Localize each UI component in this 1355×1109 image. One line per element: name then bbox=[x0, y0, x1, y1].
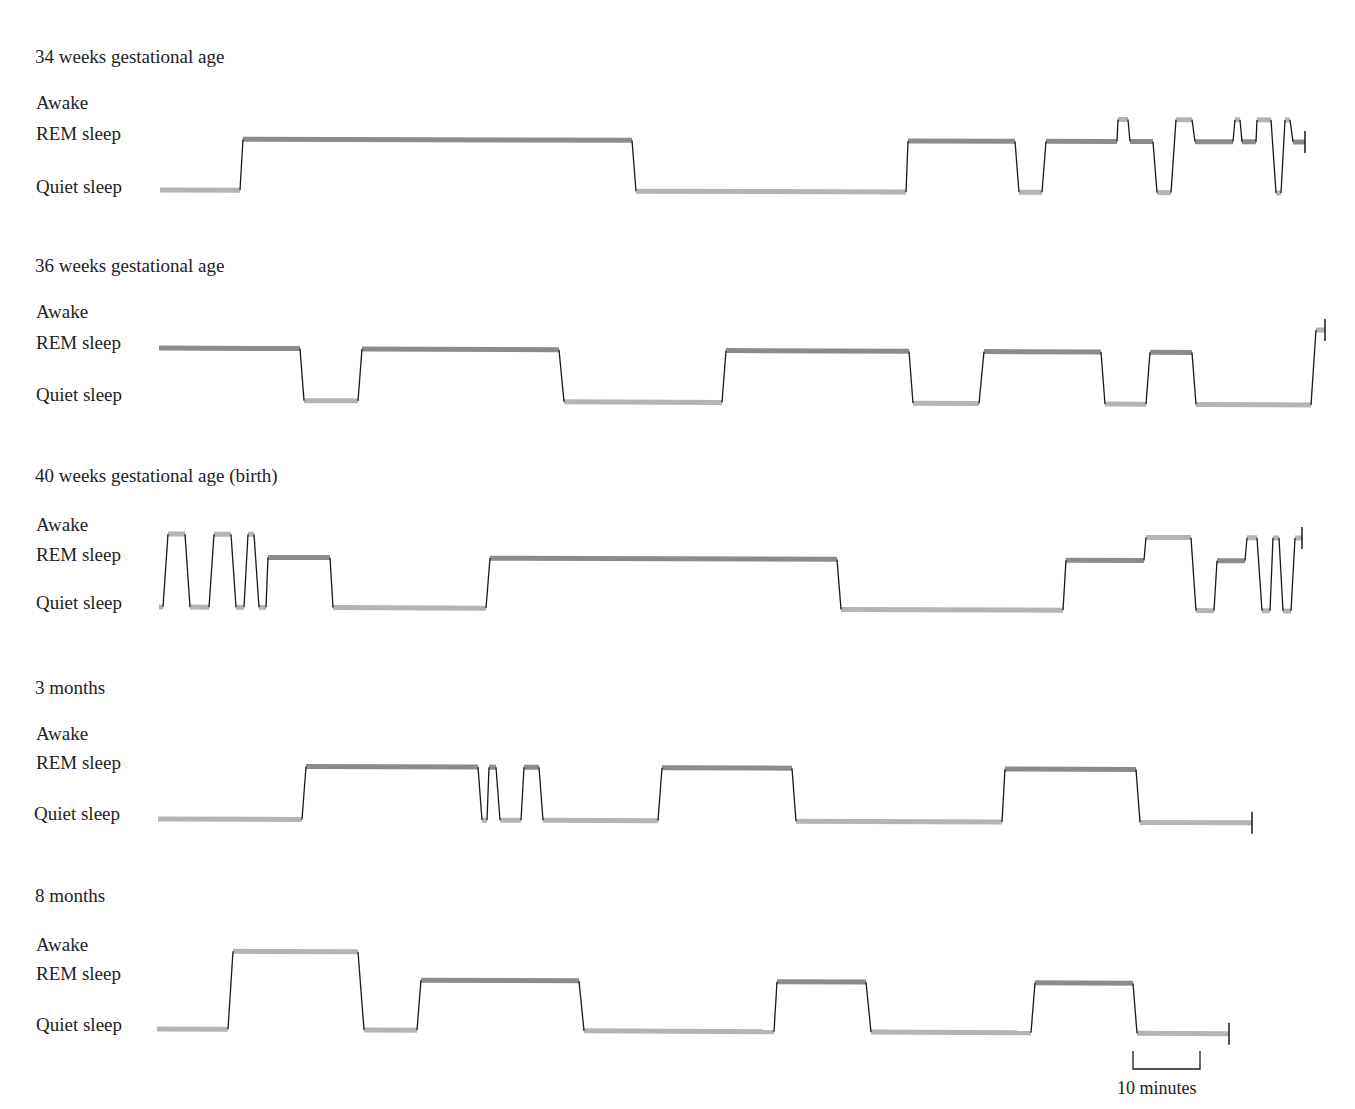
panel-trace bbox=[159, 527, 1302, 611]
hypnogram-plot bbox=[0, 0, 1355, 1109]
scale-bar-label: 10 minutes bbox=[1117, 1078, 1197, 1099]
scale-bar bbox=[1133, 1051, 1200, 1069]
panel-trace bbox=[158, 767, 1252, 834]
panel-trace bbox=[159, 319, 1325, 405]
panel-trace bbox=[160, 120, 1305, 193]
panel-trace bbox=[157, 951, 1229, 1044]
